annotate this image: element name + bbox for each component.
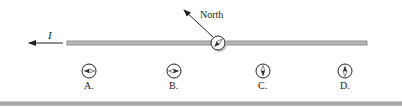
- option-d-label[interactable]: D.: [340, 80, 350, 91]
- current-label: I: [47, 29, 53, 41]
- option-b-compass-icon[interactable]: [167, 64, 181, 78]
- reference-compass-icon: [211, 36, 227, 52]
- option-b-label[interactable]: B.: [169, 80, 178, 91]
- option-a-compass-icon[interactable]: [82, 64, 96, 78]
- option-a-label[interactable]: A.: [84, 80, 94, 91]
- compass-wire-diagram: I North A. B. C. D.: [0, 0, 402, 107]
- option-c-compass-icon[interactable]: [256, 64, 270, 78]
- option-c-label[interactable]: C.: [258, 80, 267, 91]
- bottom-divider: [0, 101, 402, 106]
- option-d-compass-icon[interactable]: [338, 64, 352, 78]
- north-label: North: [200, 9, 223, 20]
